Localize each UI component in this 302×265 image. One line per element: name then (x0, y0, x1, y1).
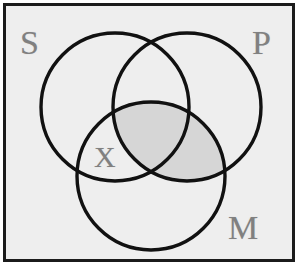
circle-label-p: P (252, 26, 271, 60)
venn-diagram-figure: S P M X (0, 0, 302, 265)
region-marker-x: X (94, 142, 116, 172)
circle-label-s: S (20, 26, 39, 60)
circle-label-m: M (228, 211, 258, 245)
diagram-frame: S P M X (3, 3, 295, 262)
